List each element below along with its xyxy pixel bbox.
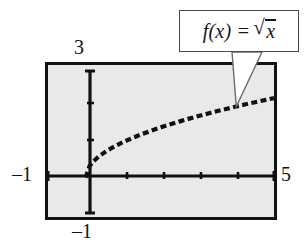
function-expression: f(x) = √ x <box>203 19 276 43</box>
figure-square-root-graph: f(x) = √ x 3 –1 5 –1 <box>0 0 304 244</box>
y-axis-max-label: 3 <box>74 36 84 59</box>
function-expression-lhs: f(x) = <box>203 20 250 43</box>
radical-sign-icon: √ <box>253 17 265 38</box>
radicand: x <box>266 20 275 42</box>
function-label-callout: f(x) = √ x <box>179 10 299 52</box>
callout-pointer <box>232 52 262 107</box>
radical-vinculum <box>265 19 276 21</box>
x-axis-max-label: 5 <box>281 163 291 186</box>
radical-group: √ x <box>253 19 275 43</box>
sqrt-curve <box>86 98 274 177</box>
y-axis-min-label: –1 <box>72 220 92 243</box>
x-axis-min-label: –1 <box>12 163 32 186</box>
